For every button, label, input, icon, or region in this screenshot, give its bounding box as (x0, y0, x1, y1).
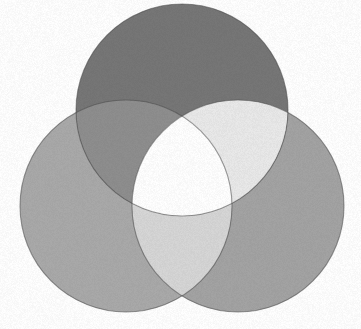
figure-canvas (0, 0, 361, 329)
venn-diagram (0, 0, 361, 329)
